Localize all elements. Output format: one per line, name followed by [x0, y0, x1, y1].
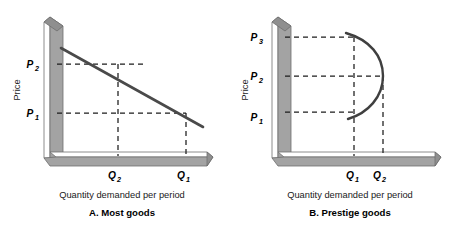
quantity-label-q1-sub: 1 — [355, 175, 359, 184]
price-label-p2-base: P — [251, 71, 258, 82]
price-label-p2: P 2 — [27, 59, 39, 73]
quantity-label-q2-base: Q — [108, 170, 116, 181]
price-label-p1: P 1 — [251, 112, 263, 126]
price-label-p3-base: P — [251, 32, 258, 43]
economics-demand-figure: Price P 2 P 1 Q 2 Q 1 Quantity demanded … — [0, 0, 455, 229]
price-label-p3-sub: 3 — [259, 37, 263, 46]
y-axis-title: Price — [240, 79, 250, 100]
quantity-label-q2: Q 2 — [373, 170, 386, 184]
price-label-p1: P 1 — [27, 108, 39, 122]
quantity-label-q1: Q 1 — [177, 170, 190, 184]
price-label-p3: P 3 — [251, 32, 263, 46]
price-label-p2: P 2 — [251, 71, 263, 85]
panel-caption: B. Prestige goods — [309, 207, 391, 218]
price-label-p1-sub: 1 — [259, 117, 263, 126]
price-label-p1-base: P — [27, 108, 34, 119]
panel-most-goods: Price P 2 P 1 Q 2 Q 1 Quantity demanded … — [0, 0, 227, 229]
quantity-label-q1-sub: 1 — [186, 175, 190, 184]
y-axis-slab — [44, 17, 63, 158]
y-axis-title: Price — [12, 79, 22, 100]
price-label-p2-sub: 2 — [258, 76, 263, 85]
demand-curve-line — [61, 48, 203, 127]
quantity-label-q1: Q 1 — [346, 170, 359, 184]
x-axis-slab — [44, 152, 213, 166]
price-label-p2-sub: 2 — [34, 64, 39, 73]
guide-lines — [57, 64, 186, 156]
quantity-label-q2: Q 2 — [108, 170, 121, 184]
panel-caption: A. Most goods — [89, 207, 155, 218]
quantity-label-q1-base: Q — [346, 170, 354, 181]
price-label-p1-sub: 1 — [35, 113, 39, 122]
x-axis-title: Quantity demanded per period — [59, 190, 185, 200]
guide-lines — [285, 37, 383, 156]
panel-prestige-goods: Price P 3 P 2 P 1 Q 1 Q 2 — [228, 0, 455, 229]
quantity-label-q2-base: Q — [373, 170, 381, 181]
quantity-label-q1-base: Q — [177, 170, 185, 181]
quantity-label-q2-sub: 2 — [381, 175, 386, 184]
price-label-p1-base: P — [251, 112, 258, 123]
x-axis-slab — [272, 152, 441, 166]
x-axis-title: Quantity demanded per period — [287, 190, 413, 200]
y-axis-slab — [272, 17, 291, 158]
quantity-label-q2-sub: 2 — [116, 175, 121, 184]
price-label-p2-base: P — [27, 59, 34, 70]
